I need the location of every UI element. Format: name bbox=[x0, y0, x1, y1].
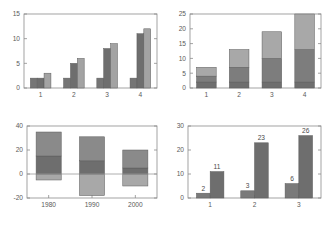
bar-value-label: 11 bbox=[214, 163, 221, 170]
bar-segment[interactable] bbox=[295, 50, 315, 83]
y-tick-label: 10 bbox=[179, 55, 187, 62]
bar[interactable] bbox=[137, 34, 144, 88]
bar-value-label: 26 bbox=[302, 127, 310, 134]
signed-stacked-bar-chart-svg: -2002040198019902000 bbox=[0, 114, 164, 222]
bar[interactable] bbox=[44, 73, 51, 88]
y-tick-label: 20 bbox=[177, 146, 185, 153]
bar[interactable] bbox=[104, 49, 111, 88]
bar[interactable] bbox=[255, 143, 269, 198]
bar-segment[interactable] bbox=[123, 168, 148, 174]
bar-segment[interactable] bbox=[123, 150, 148, 168]
x-tick-label: 2 bbox=[237, 91, 241, 98]
x-tick-label: 1 bbox=[39, 91, 43, 98]
bar[interactable] bbox=[299, 136, 313, 198]
y-tick-label: 10 bbox=[13, 35, 21, 42]
bar[interactable] bbox=[64, 78, 71, 88]
bar-segment[interactable] bbox=[197, 82, 217, 88]
bar[interactable] bbox=[37, 78, 44, 88]
x-tick-label: 3 bbox=[297, 201, 301, 208]
bar-segment[interactable] bbox=[36, 174, 61, 180]
bar-segment[interactable] bbox=[79, 161, 104, 174]
x-tick-label: 2 bbox=[72, 91, 76, 98]
figure-canvas: 0510151234 05101520251234 -2002040198019… bbox=[0, 0, 328, 225]
y-tick-label: 15 bbox=[179, 40, 187, 47]
y-tick-label: 0 bbox=[16, 84, 20, 91]
y-tick-label: 30 bbox=[177, 122, 185, 129]
bar[interactable] bbox=[196, 193, 210, 198]
x-tick-label: 3 bbox=[270, 91, 274, 98]
y-tick-label: 0 bbox=[19, 170, 23, 177]
chart-panel-top-right[interactable]: 05101520251234 bbox=[164, 2, 328, 112]
y-tick-label: 15 bbox=[13, 10, 21, 17]
chart-panel-top-left[interactable]: 0510151234 bbox=[0, 2, 164, 112]
y-tick-label: 40 bbox=[16, 122, 24, 129]
bar-segment[interactable] bbox=[79, 137, 104, 161]
bar[interactable] bbox=[210, 172, 224, 198]
labeled-bar-chart-svg: 0102030123211323626 bbox=[164, 114, 328, 222]
bar[interactable] bbox=[70, 63, 77, 88]
y-tick-label: 5 bbox=[16, 60, 20, 67]
bar-value-label: 6 bbox=[290, 175, 294, 182]
x-tick-label: 1980 bbox=[41, 201, 56, 208]
bar-value-label: 2 bbox=[201, 185, 205, 192]
bar-value-label: 23 bbox=[258, 134, 266, 141]
bar[interactable] bbox=[285, 184, 299, 198]
bar-segment[interactable] bbox=[79, 174, 104, 196]
y-tick-label: 0 bbox=[182, 84, 186, 91]
bar-segment[interactable] bbox=[123, 174, 148, 186]
y-tick-label: 0 bbox=[180, 194, 184, 201]
bar-segment[interactable] bbox=[229, 67, 249, 82]
x-tick-label: 4 bbox=[139, 91, 143, 98]
y-tick-label: -20 bbox=[13, 194, 23, 201]
chart-panel-bottom-right[interactable]: 0102030123211323626 bbox=[164, 114, 328, 222]
bar-segment[interactable] bbox=[197, 76, 217, 82]
x-tick-label: 4 bbox=[303, 91, 307, 98]
bar[interactable] bbox=[30, 78, 37, 88]
stacked-bar-chart-svg: 05101520251234 bbox=[164, 2, 328, 112]
y-tick-label: 25 bbox=[179, 10, 187, 17]
bar-segment[interactable] bbox=[262, 58, 282, 82]
bar-segment[interactable] bbox=[36, 132, 61, 156]
bar-segment[interactable] bbox=[229, 82, 249, 88]
x-tick-label: 1 bbox=[205, 91, 209, 98]
bar[interactable] bbox=[97, 78, 104, 88]
x-tick-label: 1 bbox=[208, 201, 212, 208]
bar[interactable] bbox=[241, 191, 255, 198]
bar-segment[interactable] bbox=[229, 50, 249, 68]
x-tick-label: 2 bbox=[253, 201, 257, 208]
x-tick-label: 1990 bbox=[85, 201, 100, 208]
chart-panel-bottom-left[interactable]: -2002040198019902000 bbox=[0, 114, 164, 222]
bar-segment[interactable] bbox=[262, 82, 282, 88]
grouped-bar-chart-svg: 0510151234 bbox=[0, 2, 164, 112]
bar[interactable] bbox=[144, 29, 151, 88]
bar-segment[interactable] bbox=[262, 32, 282, 59]
y-tick-label: 20 bbox=[179, 25, 187, 32]
bar[interactable] bbox=[77, 58, 84, 88]
bar-segment[interactable] bbox=[197, 67, 217, 76]
bar[interactable] bbox=[130, 78, 137, 88]
bar-segment[interactable] bbox=[36, 156, 61, 174]
x-tick-label: 2000 bbox=[128, 201, 143, 208]
bar-value-label: 3 bbox=[246, 182, 250, 189]
y-tick-label: 5 bbox=[182, 70, 186, 77]
x-tick-label: 3 bbox=[105, 91, 109, 98]
bar-segment[interactable] bbox=[295, 82, 315, 88]
bar[interactable] bbox=[111, 44, 118, 88]
y-tick-label: 20 bbox=[16, 146, 24, 153]
bar-segment[interactable] bbox=[295, 14, 315, 50]
y-tick-label: 10 bbox=[177, 170, 185, 177]
